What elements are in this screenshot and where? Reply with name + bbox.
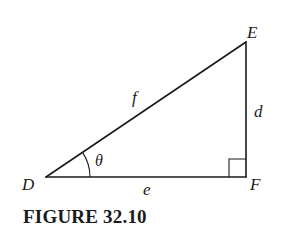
figure-caption: FIGURE 32.10 — [23, 207, 147, 226]
right-angle-marker — [229, 159, 246, 177]
side-label-f: f — [132, 89, 137, 106]
vertex-label-f: F — [250, 176, 260, 193]
angle-theta-arc — [83, 152, 91, 177]
triangle-diagram — [0, 0, 286, 236]
side-label-d: d — [254, 103, 263, 120]
vertex-label-e: E — [247, 24, 257, 41]
vertex-label-d: D — [22, 176, 34, 193]
side-label-e: e — [143, 181, 151, 198]
side-f-hypotenuse — [46, 42, 246, 177]
angle-label-theta: θ — [95, 153, 103, 169]
